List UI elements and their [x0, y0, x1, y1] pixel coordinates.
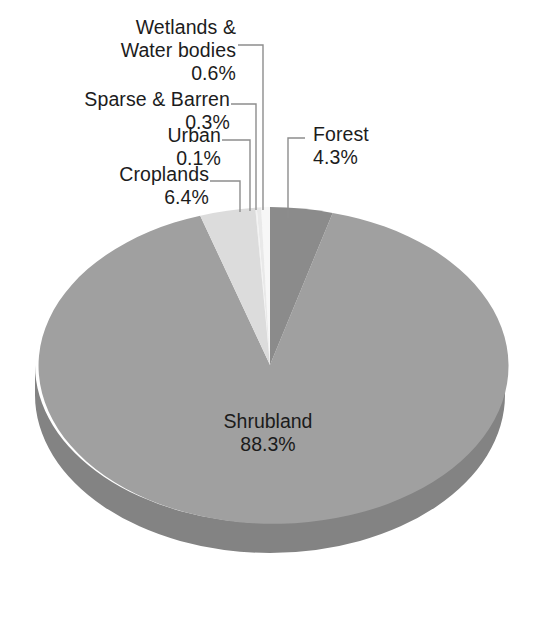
- callout-forest-value: 4.3%: [313, 146, 369, 169]
- slice-label-shrubland-value: 88.3%: [0, 433, 536, 456]
- callout-croplands-value: 6.4%: [119, 186, 209, 209]
- pie-chart-canvas: [0, 0, 536, 630]
- slice-label-shrubland-name: Shrubland: [0, 410, 536, 433]
- callout-sparse-barren-name: Sparse & Barren: [84, 88, 230, 111]
- leader-line-urban: [222, 140, 250, 211]
- callout-wetlands-name-line2: Water bodies: [121, 39, 236, 62]
- callout-wetlands-name-line1: Wetlands &: [121, 16, 236, 39]
- callout-wetlands-water-bodies: Wetlands & Water bodies 0.6%: [121, 16, 236, 84]
- callout-urban-name: Urban: [167, 124, 221, 147]
- leader-line-forest: [288, 138, 305, 218]
- leader-line-sparse-barren: [231, 104, 256, 210]
- callout-wetlands-value: 0.6%: [121, 62, 236, 85]
- pie-chart-figure: Wetlands & Water bodies 0.6% Sparse & Ba…: [0, 0, 536, 630]
- leader-line-croplands: [210, 181, 240, 212]
- callout-forest-name: Forest: [313, 123, 369, 146]
- slice-label-shrubland: Shrubland 88.3%: [0, 410, 536, 457]
- callout-forest: Forest 4.3%: [313, 123, 369, 169]
- pie-top-face: [39, 207, 509, 524]
- callout-croplands-name: Croplands: [119, 163, 209, 186]
- callout-croplands: Croplands 6.4%: [119, 163, 209, 209]
